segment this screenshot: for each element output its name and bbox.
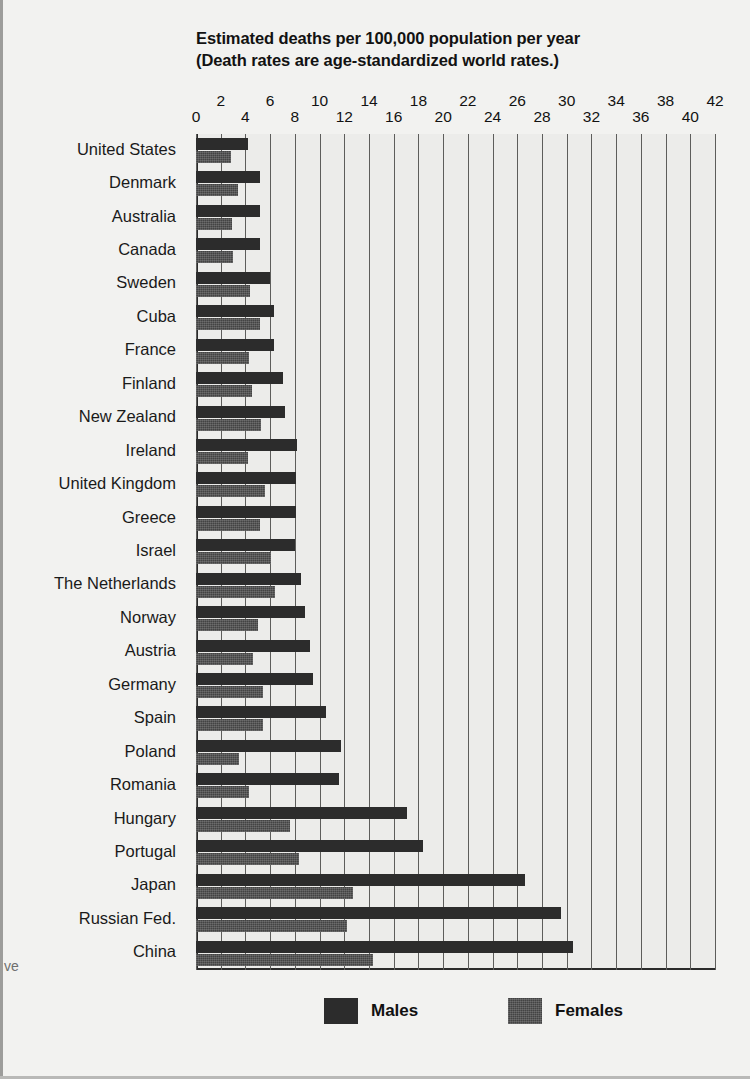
category-label-russian-fed: Russian Fed. — [79, 908, 176, 927]
category-label-the-netherlands: The Netherlands — [54, 574, 176, 593]
category-axis-labels: United StatesDenmarkAustraliaCanadaSwede… — [0, 134, 186, 970]
gridline-28 — [542, 134, 543, 970]
category-label-canada: Canada — [118, 240, 176, 259]
x-tick-label-24: 24 — [484, 108, 501, 126]
category-label-france: France — [125, 340, 176, 359]
bar-male-norway — [196, 606, 305, 618]
bar-female-china — [196, 954, 373, 966]
bar-male-japan — [196, 874, 525, 886]
bar-male-australia — [196, 205, 260, 217]
bar-male-united-kingdom — [196, 472, 296, 484]
category-label-cuba: Cuba — [137, 306, 176, 325]
x-tick-label-42: 42 — [706, 92, 723, 110]
x-tick-label-4: 4 — [241, 108, 250, 126]
category-label-japan: Japan — [131, 875, 176, 894]
legend-label-males: Males — [371, 1001, 418, 1021]
bar-female-spain — [196, 719, 263, 731]
bar-male-romania — [196, 773, 339, 785]
category-label-austria: Austria — [125, 641, 176, 660]
bar-male-israel — [196, 539, 295, 551]
bar-female-japan — [196, 887, 353, 899]
category-label-portugal: Portugal — [115, 841, 176, 860]
chart-title-line-1: Estimated deaths per 100,000 population … — [196, 28, 736, 50]
bar-male-canada — [196, 238, 260, 250]
bar-female-ireland — [196, 452, 248, 464]
category-label-finland: Finland — [122, 373, 176, 392]
bar-female-sweden — [196, 285, 250, 297]
bar-female-united-states — [196, 151, 231, 163]
x-tick-label-22: 22 — [459, 92, 476, 110]
x-tick-label-16: 16 — [385, 108, 402, 126]
gridline-36 — [641, 134, 642, 970]
bar-male-denmark — [196, 171, 260, 183]
gridline-24 — [493, 134, 494, 970]
bar-female-poland — [196, 753, 239, 765]
bar-female-portugal — [196, 853, 299, 865]
bar-female-greece — [196, 519, 260, 531]
bar-female-canada — [196, 251, 233, 263]
category-label-denmark: Denmark — [109, 173, 176, 192]
category-label-germany: Germany — [108, 674, 176, 693]
category-label-spain: Spain — [134, 708, 176, 727]
bar-female-france — [196, 352, 249, 364]
bar-male-finland — [196, 372, 283, 384]
bar-male-ireland — [196, 439, 297, 451]
legend-swatch-males — [324, 998, 358, 1024]
gridline-38 — [666, 134, 667, 970]
category-label-hungary: Hungary — [114, 808, 176, 827]
legend-item-males: Males — [324, 998, 418, 1024]
bar-male-united-states — [196, 138, 248, 150]
bar-female-united-kingdom — [196, 485, 265, 497]
bar-female-hungary — [196, 820, 290, 832]
x-tick-label-34: 34 — [608, 92, 625, 110]
bar-female-finland — [196, 385, 252, 397]
bar-male-china — [196, 941, 573, 953]
gridline-32 — [591, 134, 592, 970]
category-label-poland: Poland — [125, 741, 176, 760]
bar-female-the-netherlands — [196, 586, 275, 598]
x-tick-label-30: 30 — [558, 92, 575, 110]
chart-title-line-2: (Death rates are age-standardized world … — [196, 50, 736, 72]
gridline-40 — [690, 134, 691, 970]
x-tick-label-26: 26 — [509, 92, 526, 110]
bar-male-greece — [196, 506, 296, 518]
bar-male-spain — [196, 706, 326, 718]
x-tick-label-32: 32 — [583, 108, 600, 126]
gridline-34 — [616, 134, 617, 970]
bar-male-portugal — [196, 840, 423, 852]
category-label-greece: Greece — [122, 507, 176, 526]
bar-female-new-zealand — [196, 419, 261, 431]
category-label-romania: Romania — [110, 775, 176, 794]
category-label-norway: Norway — [120, 607, 176, 626]
bar-female-romania — [196, 786, 249, 798]
x-tick-label-14: 14 — [360, 92, 377, 110]
legend-label-females: Females — [555, 1001, 623, 1021]
category-label-new-zealand: New Zealand — [79, 407, 176, 426]
gridline-42 — [715, 134, 716, 970]
x-tick-label-20: 20 — [435, 108, 452, 126]
bar-male-the-netherlands — [196, 573, 301, 585]
bar-female-australia — [196, 218, 232, 230]
x-axis-tick-labels: 024681012141618202224262830323436384042 — [0, 92, 750, 132]
plot-area — [196, 134, 715, 970]
x-tick-label-0: 0 — [192, 108, 201, 126]
legend-item-females: Females — [508, 998, 623, 1024]
gridline-30 — [567, 134, 568, 970]
chart-title: Estimated deaths per 100,000 population … — [196, 28, 736, 72]
bar-male-sweden — [196, 272, 270, 284]
bar-female-cuba — [196, 318, 260, 330]
x-tick-label-12: 12 — [336, 108, 353, 126]
bar-male-austria — [196, 640, 310, 652]
chart-legend: Males Females — [0, 998, 750, 1038]
bar-female-israel — [196, 552, 271, 564]
bar-female-russian-fed — [196, 920, 347, 932]
chart-page: Estimated deaths per 100,000 population … — [0, 0, 750, 1079]
bar-male-germany — [196, 673, 313, 685]
bar-male-france — [196, 339, 274, 351]
x-tick-label-18: 18 — [410, 92, 427, 110]
bar-male-cuba — [196, 305, 274, 317]
category-label-australia: Australia — [112, 206, 176, 225]
x-tick-label-28: 28 — [533, 108, 550, 126]
x-tick-label-6: 6 — [266, 92, 275, 110]
gridline-26 — [517, 134, 518, 970]
